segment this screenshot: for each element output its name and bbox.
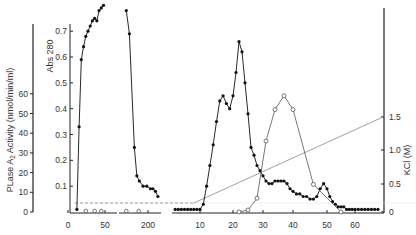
x-tick-label: 50 [322,220,332,230]
x-tick-label: 20 [228,220,238,230]
abs280-point [215,120,218,123]
abs280-point [246,112,249,115]
abs280-point [305,195,308,198]
abs280-point [348,208,351,211]
abs280-point [273,179,276,182]
abs280-point [78,125,81,128]
x-tick-label: 0 [66,220,71,230]
kcl-tick-label: 0 [389,207,394,217]
abs280-tick-label: 0.7 [55,26,67,36]
abs280-tick-label: 0.1 [55,181,67,191]
abs280-point [218,99,221,102]
abs280-point [295,192,298,195]
abs280-point [93,17,96,20]
x-tick-label: 10 [195,220,205,230]
abs280-point [322,182,325,185]
abs280-line [77,5,104,209]
abs280-point [234,71,237,74]
abs280-tick-label: 0.3 [55,130,67,140]
abs280-point [95,19,98,22]
abs280-point [102,4,105,7]
plase-point [237,210,241,214]
plase-point [137,209,141,213]
abs280-point [315,195,318,198]
abs280-point [312,197,315,200]
kcl-tick-label: 1.0 [389,145,401,155]
abs280-point [75,208,78,211]
kcl-tick-label: 0.5 [389,179,401,189]
plase-point [273,108,277,112]
plase-point [264,139,268,143]
abs280-point [282,179,285,182]
abs280-point [276,179,279,182]
abs280-point [370,208,373,211]
abs280-point [89,24,92,27]
plase-tick-label: 60 [19,89,29,99]
abs280-point [328,195,331,198]
abs280-point [133,146,136,149]
abs280-point [231,94,234,97]
abs280-tick-label: 0.2 [55,155,67,165]
abs280-point [177,208,180,211]
abs280-point [376,208,379,211]
abs280-point [156,195,159,198]
abs280-point [339,205,342,208]
abs280-point [373,208,376,211]
abs280-point [308,197,311,200]
abs280-point [351,208,354,211]
abs280-point [237,40,240,43]
abs280-point [80,58,83,61]
abs280-point [291,190,294,193]
abs280-point [255,164,258,167]
abs280-point [357,208,360,211]
abs280-point [353,208,356,211]
abs280-point [202,203,205,206]
abs280-tick-label: 0.6 [55,52,67,62]
abs280-point [228,107,231,110]
plase-point [93,209,97,213]
abs280-point [205,185,208,188]
abs280-point [135,174,138,177]
abs280-point [279,179,282,182]
x-tick-label: 200 [141,220,155,230]
abs280-point [342,205,345,208]
abs280-point [285,182,288,185]
abs280-point [264,179,267,182]
abs280-point [180,208,183,211]
abs280-point [298,192,301,195]
abs280-point [261,174,264,177]
x-tick-label: 60 [350,220,360,230]
abs280-point [198,208,201,211]
plase-tick-label: 40 [19,128,29,138]
plase-point [282,94,286,98]
abs280-point [302,195,305,198]
abs280-point [243,81,246,84]
abs280-point [154,190,157,193]
abs280-point [240,50,243,53]
plase-point [291,108,295,112]
x-tick-label: 40 [288,220,298,230]
series-layer [75,4,383,214]
abs280-point [97,9,100,12]
abs280-axis-label: Abs 280 [45,39,55,72]
abs280-point [128,32,131,35]
abs280-point [125,9,128,12]
kcl-axis-label: KCl (M) [402,145,412,176]
plase-tick-label: 20 [19,168,29,178]
abs280-point [252,154,255,157]
abs280-tick-label: 0.5 [55,78,67,88]
abs280-point [151,187,154,190]
plase-axis: 0102030405060 PLase A2 Activity (nmol/mi… [5,24,33,217]
plase-tick-label: 0 [23,207,28,217]
plase-tick-label: 30 [19,148,29,158]
abs280-point [183,208,186,211]
abs280-axis: 0.10.20.30.40.50.60.7 Abs 280 [45,24,73,213]
abs280-point [208,164,211,167]
abs280-point [367,208,370,211]
kcl-gradient-line [194,117,383,203]
abs280-point [192,208,195,211]
abs280-point [84,35,87,38]
x-tick-label: 50 [100,220,110,230]
abs280-tick-label: 0.4 [55,104,67,114]
abs280-point [186,208,189,211]
